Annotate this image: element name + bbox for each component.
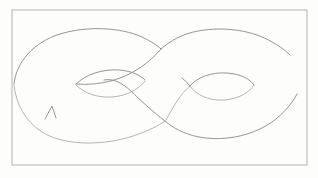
sketch-canvas: [0, 0, 318, 178]
hand-drawn-double-torus-figure: [0, 0, 318, 178]
paper-background: [0, 0, 318, 178]
